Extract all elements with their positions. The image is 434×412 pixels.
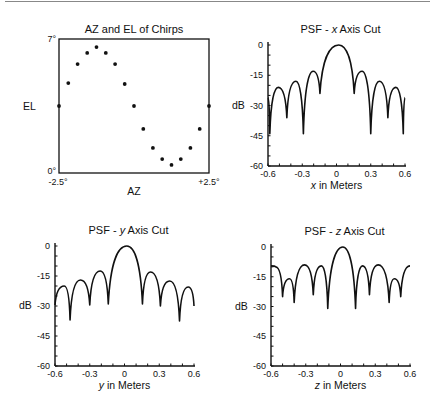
y-axis-label: EL	[23, 100, 36, 112]
y-tick-label-bottom: 0°	[47, 166, 56, 176]
x-tick-label: 0.3	[153, 369, 166, 379]
y-tick-label: -45	[250, 131, 263, 141]
x-tick-label: 0	[338, 369, 343, 379]
y-tick-label-top: 7°	[47, 34, 56, 44]
x-tick-label: 0.3	[364, 169, 377, 179]
y-tick-label: -45	[37, 331, 50, 341]
x-tick-label: -0.3	[298, 369, 314, 379]
x-tick-label: -0.6	[263, 369, 279, 379]
y-axis-label: dB	[19, 299, 32, 311]
y-tick-label: -30	[37, 301, 50, 311]
data-point	[66, 81, 70, 85]
chart-title: PSF - y Axis Cut	[88, 224, 168, 236]
chart-title: PSF - x Axis Cut	[300, 23, 380, 35]
chart-psf-y-cut: PSF - y Axis Cut0-15-30-45-60-0.6-0.300.…	[19, 224, 200, 391]
figure: AZ and EL of Chirps 7° 0° -2.5° +2.5° EL…	[0, 0, 434, 412]
data-point	[76, 62, 80, 66]
x-tick-label: 0.3	[369, 369, 382, 379]
chart-psf-z-cut: PSF - z Axis Cut0-15-30-45-60-0.6-0.300.…	[235, 225, 416, 391]
x-tick-label: -0.6	[47, 369, 63, 379]
x-tick-label: 0	[334, 169, 339, 179]
y-tick-label: 0	[258, 40, 263, 50]
x-tick-label-left: -2.5°	[48, 177, 68, 187]
data-point	[123, 82, 127, 86]
y-tick-label: -30	[250, 101, 263, 111]
chart-title: PSF - z Axis Cut	[304, 225, 384, 237]
psf-curve	[271, 247, 410, 308]
y-tick-label: 0	[261, 242, 266, 252]
data-point	[57, 104, 61, 108]
y-tick-label: -30	[253, 302, 266, 312]
y-tick-label: -15	[37, 271, 50, 281]
data-point	[179, 157, 183, 161]
x-tick-label: -0.3	[294, 169, 310, 179]
y-axis-label: dB	[235, 300, 248, 312]
x-tick-label: -0.6	[260, 169, 276, 179]
data-point	[104, 51, 108, 55]
data-point	[207, 104, 211, 108]
y-tick-label: 0	[45, 241, 50, 251]
data-point	[151, 146, 155, 150]
data-point	[132, 104, 136, 108]
x-tick-label: 0	[122, 369, 127, 379]
y-tick-label: -45	[253, 331, 266, 341]
data-point	[189, 146, 193, 150]
data-point	[95, 45, 99, 49]
chart-az-el: AZ and EL of Chirps 7° 0° -2.5° +2.5° EL…	[23, 23, 220, 197]
x-axis-label: AZ	[127, 185, 141, 197]
x-axis-label: z in Meters	[314, 379, 366, 391]
y-tick-label: -15	[253, 272, 266, 282]
x-tick-label: 0.6	[404, 369, 417, 379]
scatter-points	[57, 45, 211, 167]
y-axis-label: dB	[232, 99, 245, 111]
y-tick-label: -15	[250, 70, 263, 80]
x-tick-label-right: +2.5°	[198, 177, 220, 187]
data-point	[160, 157, 164, 161]
data-point	[113, 62, 117, 66]
psf-curve	[55, 246, 194, 321]
x-tick-label: 0.6	[188, 369, 201, 379]
chart-psf-x-cut: PSF - x Axis Cut0-15-30-45-60-0.6-0.300.…	[232, 23, 411, 191]
x-tick-label: 0.6	[399, 169, 412, 179]
x-axis-label: x in Meters	[310, 179, 362, 191]
data-point	[141, 127, 145, 131]
data-point	[198, 127, 202, 131]
psf-curve	[268, 45, 405, 134]
chart-title: AZ and EL of Chirps	[85, 23, 184, 35]
data-point	[85, 51, 89, 55]
x-tick-label: -0.3	[82, 369, 98, 379]
x-axis-label: y in Meters	[98, 379, 150, 391]
data-point	[170, 163, 174, 167]
